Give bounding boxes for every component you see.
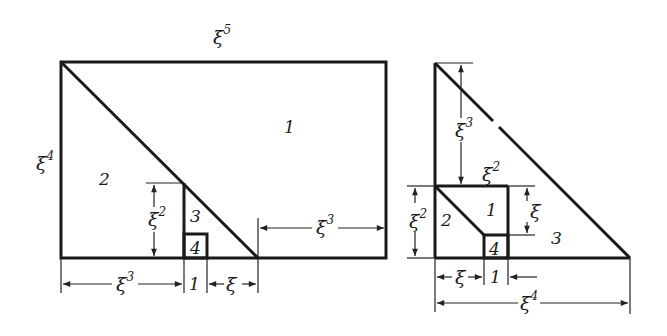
diagonal-upper: [435, 63, 493, 121]
label-top: ξ5: [213, 23, 231, 48]
label-left: ξ4: [36, 149, 54, 174]
region-1: 1: [284, 117, 295, 137]
region-1: 1: [486, 200, 497, 220]
main-diagonal: [61, 62, 258, 258]
dim-inner-xi: ξ: [530, 200, 542, 222]
left-diagram: ξ5 ξ4 1 2 3 4 ξ2 ξ3 ξ3 1 ξ: [36, 23, 386, 295]
dim-bottom-total: ξ4: [520, 289, 538, 314]
dim-left-height: ξ2: [409, 207, 427, 232]
region-2: 2: [98, 169, 110, 189]
dim-bottom-xi: ξ: [455, 266, 467, 288]
region-4: 4: [189, 238, 201, 258]
region-2: 2: [440, 210, 452, 230]
dim-inner-height: ξ2: [148, 205, 166, 230]
dim-top-height: ξ3: [455, 116, 473, 141]
region-4: 4: [488, 239, 500, 259]
dim-inner-top: ξ2: [482, 160, 500, 185]
region-3: 3: [551, 228, 562, 248]
right-diagram: ξ3 ξ2 ξ2 ξ 1 2 3 4 ξ 1 ξ4: [407, 63, 630, 314]
diagonal-lower: [499, 127, 630, 258]
dim-bottom-xi: ξ: [226, 273, 238, 295]
outer-rectangle: [61, 62, 386, 258]
dim-bottom-unit: 1: [490, 267, 501, 287]
polyomino-decomposition-diagram: ξ5 ξ4 1 2 3 4 ξ2 ξ3 ξ3 1 ξ: [0, 0, 667, 336]
dim-bottom-left: ξ3: [116, 270, 134, 295]
dim-right-gap: ξ3: [316, 213, 334, 238]
dim-bottom-unit: 1: [189, 274, 200, 294]
region-3: 3: [190, 206, 201, 226]
